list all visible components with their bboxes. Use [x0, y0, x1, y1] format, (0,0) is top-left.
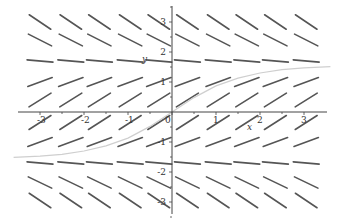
slope-segment	[28, 34, 51, 46]
slope-segment	[88, 93, 110, 107]
slope-segment	[262, 60, 288, 62]
slope-segment	[28, 138, 52, 147]
y-tick-label: -2	[157, 167, 166, 177]
slope-segment	[147, 78, 171, 87]
slope-segment	[89, 193, 111, 207]
y-tick-label: -1	[157, 137, 166, 147]
slope-segment	[59, 138, 83, 147]
slope-segment	[29, 193, 51, 207]
slope-segment	[265, 15, 287, 30]
slope-segment	[295, 15, 317, 30]
slope-segment	[28, 177, 51, 188]
slope-segment	[207, 93, 229, 107]
slope-segment	[86, 162, 112, 164]
slope-segment	[146, 162, 172, 164]
slope-segment	[118, 78, 142, 87]
x-tick-label: -1	[125, 115, 134, 125]
slope-segment	[205, 162, 231, 164]
x-tick-label: -2	[81, 115, 90, 125]
slope-segment	[262, 162, 288, 164]
slope-segment	[87, 78, 111, 87]
slope-segment	[236, 193, 258, 207]
slope-segment	[206, 138, 230, 147]
slope-segment	[119, 34, 142, 46]
slope-segment	[235, 177, 258, 188]
slope-segment	[89, 15, 111, 30]
slope-segment	[175, 138, 199, 147]
slope-segment	[263, 78, 287, 87]
slope-segment	[177, 193, 199, 207]
slope-segment	[59, 177, 82, 188]
x-tick-label: -3	[37, 115, 46, 125]
slope-segment	[27, 162, 53, 164]
slope-segment	[206, 177, 229, 188]
slope-segment	[236, 93, 258, 107]
y-tick-label: -3	[157, 197, 166, 207]
slope-segment	[118, 177, 141, 188]
slope-segment	[235, 34, 258, 46]
slope-segment	[27, 60, 53, 62]
y-axis-label: y	[141, 54, 148, 64]
slope-segment	[60, 93, 82, 107]
slope-segment	[176, 115, 198, 129]
slope-segment	[119, 15, 141, 30]
slope-segment	[235, 78, 259, 87]
slope-segment	[118, 138, 142, 147]
slope-segment	[174, 162, 200, 164]
slope-segment	[294, 177, 317, 188]
slope-segment	[88, 177, 111, 188]
slope-segment	[119, 93, 141, 107]
slope-segment	[60, 193, 82, 207]
slope-segment	[295, 193, 317, 207]
x-tick-label: 1	[213, 115, 219, 125]
slope-segment	[236, 15, 258, 30]
slope-segment	[86, 60, 112, 62]
x-tick-label: 0	[165, 115, 171, 125]
slope-segment	[295, 34, 318, 46]
slope-segment	[175, 78, 199, 87]
slope-segment	[265, 193, 287, 207]
slope-segment	[235, 138, 259, 147]
slope-segment	[146, 60, 172, 62]
slope-segment	[294, 138, 318, 147]
slope-segment	[60, 15, 82, 30]
slope-segment	[263, 138, 287, 147]
slope-segment	[174, 60, 200, 62]
y-tick-label: 3	[160, 17, 166, 27]
slope-segment	[29, 93, 51, 107]
x-tick-label: 3	[301, 115, 307, 125]
slope-segment	[88, 115, 110, 129]
slope-segment	[294, 78, 318, 87]
slope-segment	[207, 193, 229, 207]
slope-segment	[88, 34, 111, 46]
slope-segment	[28, 78, 52, 87]
slope-segment	[59, 78, 83, 87]
slope-segment	[264, 93, 286, 107]
slope-segment	[264, 115, 286, 129]
slope-segment	[177, 15, 199, 30]
slope-segment	[207, 34, 230, 46]
x-axis-label: x	[247, 122, 252, 132]
slope-field-plot: -3-2-10123 -3-2-1123 x y	[0, 0, 345, 221]
y-tick-label: 1	[160, 77, 166, 87]
slope-segment	[293, 60, 319, 62]
slope-segment	[117, 162, 143, 164]
y-tick-label: 2	[160, 47, 166, 57]
slope-segment	[58, 162, 84, 164]
slope-segment	[176, 34, 199, 46]
slope-segment	[234, 162, 260, 164]
slope-segment	[148, 93, 170, 107]
slope-segment	[176, 93, 198, 107]
slope-segment	[29, 15, 51, 30]
slope-segment	[59, 34, 82, 46]
slope-segment	[58, 60, 84, 62]
slope-segment	[147, 177, 170, 188]
slope-segment	[295, 93, 317, 107]
slope-segment	[148, 15, 170, 30]
slope-segment	[60, 115, 82, 129]
slope-segment	[117, 60, 143, 62]
x-tick-label: 2	[257, 115, 263, 125]
slope-segment	[264, 34, 287, 46]
slope-segment	[147, 34, 170, 46]
slope-segment	[293, 162, 319, 164]
